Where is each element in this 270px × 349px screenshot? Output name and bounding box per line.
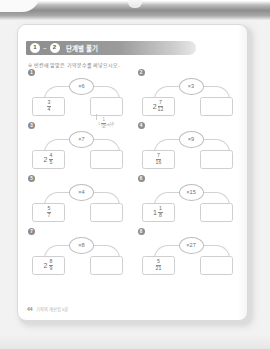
problem-number: 3: [28, 122, 35, 129]
problem-item: 8 ×27 5 21: [134, 228, 244, 281]
problem-number: 5: [28, 175, 35, 182]
fraction-denominator: 8: [159, 213, 162, 219]
instruction-text: 빈칸에 알맞은 기약분수를 써넣으시오.: [34, 62, 120, 68]
fraction-denominator: 5: [50, 160, 53, 166]
step-badge-start: 1: [29, 42, 41, 54]
top-band-left-curve: [0, 0, 40, 12]
fraction-denominator: 16: [156, 160, 162, 166]
page-number: 44: [27, 306, 33, 312]
page-footer: 44 기적의 계산법 6권: [27, 306, 68, 312]
source-number-box: 5 7: [32, 203, 65, 222]
problem-number: 7: [28, 228, 35, 235]
whole-number: 2: [153, 103, 157, 110]
whole-number: 2: [44, 156, 48, 163]
operator-oval: ×9: [179, 131, 204, 148]
answer-box[interactable]: [90, 203, 123, 222]
problem-item: 3 ×7 2 4 5: [24, 122, 134, 175]
operator-oval: ×4: [69, 184, 94, 201]
problem-item: 7 ×8 2 8 9: [24, 228, 134, 281]
source-number-box: 2 4 5: [32, 150, 65, 169]
source-number-box: 3 4: [32, 97, 65, 116]
worksheet-page: 1 ~ 2 단계별 풀기 ※빈칸에 알맞은 기약분수를 써넣으시오. 1 ×6 …: [17, 24, 248, 321]
operator-oval: ×7: [69, 131, 94, 148]
fraction: 4 5: [49, 153, 54, 165]
fraction: 5 7: [47, 206, 52, 218]
answer-box[interactable]: [200, 97, 233, 116]
fraction-denominator: 21: [156, 266, 162, 272]
answer-box[interactable]: [90, 256, 123, 275]
source-number-box: 5 21: [142, 256, 175, 275]
bottom-fade: [0, 335, 270, 349]
step-badge-end: 2: [49, 42, 61, 54]
operator-oval: ×6: [69, 78, 94, 95]
problem-number: 6: [138, 175, 145, 182]
operator-oval: ×15: [179, 184, 204, 201]
fraction-denominator: 7: [48, 213, 51, 219]
footer-book-title: 기적의 계산법 6권: [36, 306, 69, 312]
problem-number: 4: [138, 122, 145, 129]
top-band-notch: [128, 0, 142, 8]
fraction: 1 8: [158, 206, 163, 218]
whole-number: 2: [44, 262, 48, 269]
operator-oval: ×8: [69, 237, 94, 254]
source-number-box: 2 8 9: [32, 256, 65, 275]
step-range-separator: ~: [43, 43, 47, 53]
section-title-bar: 1 ~ 2 단계별 풀기: [26, 41, 196, 55]
note-leader-line: [96, 114, 97, 120]
fraction: 3 4: [47, 100, 52, 112]
problem-grid: 1 ×6 3 4 1 1 2 =18: [24, 69, 243, 281]
source-number-box: 2 7 12: [142, 97, 175, 116]
fraction: 7 16: [156, 153, 162, 165]
fraction-denominator: 12: [158, 107, 164, 113]
problem-number: 2: [138, 69, 145, 76]
problem-item: 2 ×3 2 7 12: [134, 69, 244, 122]
answer-box[interactable]: [200, 256, 233, 275]
instruction-marker-icon: ※: [28, 62, 32, 68]
section-title-bar-content: 1 ~ 2 단계별 풀기: [26, 41, 196, 55]
problem-item: 6 ×15 1 1 8: [134, 175, 244, 228]
problem-item: 1 ×6 3 4 1 1 2 =18: [24, 69, 134, 122]
answer-box[interactable]: [90, 150, 123, 169]
problem-item: 4 ×9 7 16: [134, 122, 244, 175]
answer-box[interactable]: [90, 97, 123, 116]
answer-box[interactable]: [200, 150, 233, 169]
fraction: 8 9: [49, 259, 54, 271]
operator-oval: ×3: [179, 78, 204, 95]
operator-oval: ×27: [179, 237, 204, 254]
problem-number: 1: [28, 69, 35, 76]
fraction-denominator: 4: [48, 107, 51, 113]
fraction: 5 21: [156, 259, 162, 271]
source-number-box: 7 16: [142, 150, 175, 169]
problem-number: 8: [138, 228, 145, 235]
page-title: 단계별 풀기: [66, 43, 99, 53]
scanner-top-band: [0, 0, 270, 20]
fraction-denominator: 9: [50, 266, 53, 272]
fraction: 7 12: [158, 100, 164, 112]
whole-number: 1: [153, 209, 157, 216]
instruction-line: ※빈칸에 알맞은 기약분수를 써넣으시오.: [28, 61, 120, 68]
answer-box[interactable]: [200, 203, 233, 222]
source-number-box: 1 1 8: [142, 203, 175, 222]
problem-item: 5 ×4 5 7: [24, 175, 134, 228]
